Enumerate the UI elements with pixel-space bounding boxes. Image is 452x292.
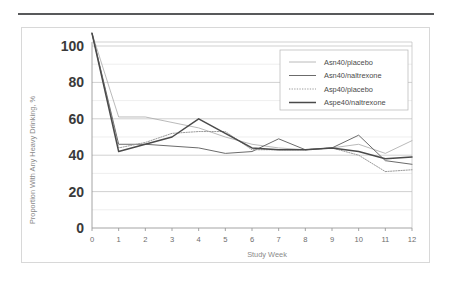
x-axis-tick-labels: 0123456789101112 (90, 235, 416, 244)
x-tick-label: 1 (117, 235, 121, 244)
figure-card: Asn40/placeboAsn40/naltrexoneAsp40/place… (21, 27, 430, 263)
line-chart: Asn40/placeboAsn40/naltrexoneAsp40/place… (22, 28, 431, 264)
legend-label-2: Asp40/placebo (324, 85, 373, 94)
y-tick-label: 40 (68, 147, 84, 163)
x-tick-label: 6 (250, 235, 254, 244)
y-tick-label: 0 (76, 220, 84, 236)
x-tick-label: 4 (197, 235, 201, 244)
x-tick-label: 8 (303, 235, 307, 244)
x-tick-label: 0 (90, 235, 94, 244)
x-tick-label: 2 (143, 235, 147, 244)
legend-label-3: Aspe40/naltrexone (324, 98, 386, 107)
x-tick-label: 7 (277, 235, 281, 244)
top-horizontal-rule (18, 13, 434, 15)
x-tick-label: 12 (408, 235, 416, 244)
y-tick-label: 60 (68, 111, 84, 127)
y-tick-label: 80 (68, 74, 84, 90)
x-tick-label: 5 (223, 235, 227, 244)
legend-label-1: Asn40/naltrexone (324, 71, 382, 80)
x-tick-label: 3 (170, 235, 174, 244)
y-axis-tick-labels: 020406080100 (61, 38, 85, 236)
x-axis-title: Study Week (247, 250, 287, 259)
chart-legend: Asn40/placeboAsn40/naltrexoneAsp40/place… (280, 50, 408, 110)
x-tick-label: 10 (354, 235, 362, 244)
y-tick-label: 20 (68, 184, 84, 200)
chart-canvas: Asn40/placeboAsn40/naltrexoneAsp40/place… (22, 28, 431, 264)
legend-label-0: Asn40/placebo (324, 58, 373, 67)
x-tick-label: 9 (330, 235, 334, 244)
x-tick-label: 11 (381, 235, 389, 244)
y-axis-title: Proportion With Any Heavy Drinking, % (28, 95, 37, 224)
y-tick-label: 100 (61, 38, 85, 54)
